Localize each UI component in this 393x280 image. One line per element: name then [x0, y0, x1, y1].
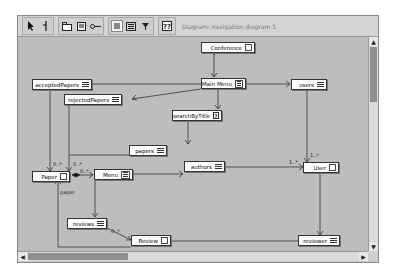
node-label: users — [299, 82, 314, 88]
menu-icon — [235, 80, 243, 88]
link-icon[interactable] — [89, 20, 101, 32]
horizontal-scroll-thumb[interactable] — [28, 253, 128, 260]
index-icon — [112, 96, 119, 103]
node-search-by-title[interactable]: searchByTitle ? — [172, 110, 222, 121]
node-label: authors — [191, 164, 212, 170]
toolbar-group-nodes — [58, 17, 104, 35]
toolbar: ?? Diagram: navigation diagram 1 — [18, 16, 378, 37]
index-icon — [82, 81, 89, 88]
scroll-right-button[interactable]: ▶ — [359, 252, 368, 261]
node-label: Main Menu — [202, 81, 232, 87]
index-icon — [157, 147, 164, 154]
node-label: rejectedPapers — [68, 97, 109, 103]
multiplicity-label: 0..* — [80, 168, 89, 174]
query-icon[interactable] — [139, 20, 151, 32]
class-node-icon[interactable] — [61, 20, 73, 32]
guided-tour-icon[interactable] — [125, 20, 137, 32]
node-label: Paper — [41, 174, 57, 180]
node-rejected-papers[interactable]: rejectedPapers — [64, 94, 122, 105]
toolbar-group-query: ?? — [158, 17, 176, 35]
multiplicity-label: 0..* — [53, 161, 62, 167]
index-icon — [330, 237, 337, 244]
navigational-class-icon — [60, 173, 67, 180]
menu-icon — [121, 171, 130, 179]
node-label: Conference — [211, 45, 242, 51]
node-review[interactable]: Review — [131, 235, 171, 246]
node-menu[interactable]: Menu — [94, 169, 133, 180]
scroll-left-button[interactable]: ◀ — [18, 252, 27, 261]
toolbar-group-select — [22, 17, 54, 35]
vertical-scroll-thumb[interactable] — [370, 47, 377, 102]
multiplicity-label: 0..* — [111, 228, 120, 234]
multiplicity-label: 0..* — [73, 161, 82, 167]
node-user[interactable]: User — [303, 162, 339, 173]
diagram-window: ?? Diagram: navigation diagram 1 — [17, 15, 379, 263]
scroll-up-button[interactable]: ▲ — [369, 37, 378, 46]
navigational-class-icon — [161, 237, 168, 244]
node-paper[interactable]: Paper — [32, 171, 70, 182]
scroll-down-button[interactable]: ▼ — [369, 242, 378, 251]
query-icon: ? — [213, 112, 219, 119]
node-label: Review — [138, 238, 158, 244]
node-accepted-papers[interactable]: acceptedPapers — [32, 79, 92, 90]
node-label: reviewer — [303, 238, 327, 244]
connector-icon[interactable] — [39, 20, 51, 32]
vertical-scrollbar[interactable]: ▲ ▼ — [368, 37, 378, 251]
node-conference[interactable]: Conference — [201, 42, 255, 53]
navigational-class-icon — [329, 164, 336, 171]
index-icon[interactable] — [111, 20, 123, 32]
index-icon — [317, 81, 324, 88]
svg-text:??: ?? — [163, 23, 171, 31]
node-papers[interactable]: papers — [129, 145, 167, 156]
node-label: reviews — [73, 221, 94, 227]
diagram-title-label: Diagram: navigation diagram 1 — [182, 23, 276, 30]
node-label: Menu — [103, 172, 118, 178]
edge-label: paper — [60, 189, 75, 195]
navigational-class-icon — [245, 44, 252, 51]
query-node-icon[interactable]: ?? — [161, 20, 173, 32]
diagram-canvas[interactable]: Conference Main Menu acceptedPapers reje… — [18, 37, 368, 251]
select-arrow-icon[interactable] — [25, 20, 37, 32]
multiplicity-label: 1..* — [310, 152, 319, 158]
toolbar-group-access — [108, 17, 154, 35]
node-label: searchByTitle — [173, 113, 210, 119]
menu-node-icon[interactable] — [75, 20, 87, 32]
multiplicity-label: 1..* — [289, 159, 298, 165]
horizontal-scrollbar[interactable]: ◀ ▶ — [18, 251, 368, 261]
scrollbar-corner — [368, 251, 378, 261]
index-icon — [97, 220, 104, 227]
node-label: User — [313, 165, 326, 171]
node-authors[interactable]: authors — [184, 161, 225, 172]
node-label: papers — [135, 148, 154, 154]
node-main-menu[interactable]: Main Menu — [201, 78, 246, 89]
node-reviews[interactable]: reviews — [67, 218, 107, 229]
node-reviewer[interactable]: reviewer — [298, 235, 340, 246]
index-icon — [215, 163, 222, 170]
node-label: acceptedPapers — [35, 82, 79, 88]
node-users[interactable]: users — [291, 79, 327, 90]
